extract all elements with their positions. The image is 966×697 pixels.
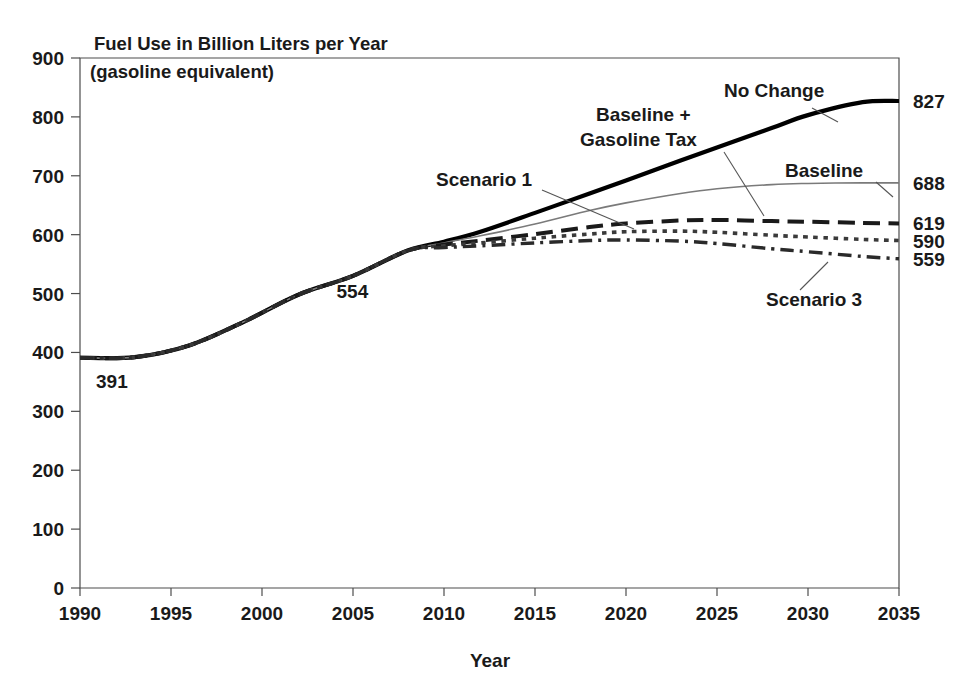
x-tick-label: 2030 <box>787 603 829 624</box>
point-value-annotations: 391554 <box>96 281 369 392</box>
x-tick-label: 1995 <box>150 603 193 624</box>
series-annotation-label: No Change <box>724 80 824 101</box>
series-annotation-label: Baseline + <box>596 104 691 125</box>
series-lines <box>80 101 899 358</box>
x-tick-label: 2005 <box>332 603 375 624</box>
series-annotation-label: Gasoline Tax <box>580 129 697 150</box>
x-axis-title: Year <box>470 650 511 671</box>
plot-frame <box>80 58 899 588</box>
y-axis-tick-marks <box>71 58 80 588</box>
series-end-value-label: 559 <box>913 249 945 270</box>
leader-line <box>876 182 893 197</box>
series-line-no-change <box>80 101 899 358</box>
y-tick-label: 600 <box>32 225 64 246</box>
y-tick-label: 500 <box>32 284 64 305</box>
series-annotation-label: Baseline <box>785 160 863 181</box>
y-tick-label: 300 <box>32 401 64 422</box>
x-axis-tick-labels: 1990199520002005201020152020202520302035 <box>59 603 921 624</box>
chart-subtitle: (gasoline equivalent) <box>90 61 274 82</box>
x-tick-label: 2025 <box>696 603 739 624</box>
y-tick-label: 900 <box>32 48 64 69</box>
series-annotations: No ChangeBaselineScenario 1Baseline +Gas… <box>436 80 863 310</box>
series-end-value-labels: 827688619590559 <box>913 91 945 270</box>
y-tick-label: 400 <box>32 342 64 363</box>
fuel-use-chart: 1990199520002005201020152020202520302035… <box>0 0 966 697</box>
series-annotation-label: Scenario 3 <box>766 289 862 310</box>
y-tick-label: 800 <box>32 107 64 128</box>
y-tick-label: 100 <box>32 519 64 540</box>
y-tick-label: 200 <box>32 460 64 481</box>
y-tick-label: 0 <box>53 578 64 599</box>
y-tick-label: 700 <box>32 166 64 187</box>
leader-line <box>724 152 764 216</box>
chart-canvas: 1990199520002005201020152020202520302035… <box>0 0 966 697</box>
x-tick-label: 2035 <box>878 603 921 624</box>
series-line-baseline <box>80 183 899 358</box>
y-axis-tick-labels: 0100200300400500600700800900 <box>32 48 64 599</box>
series-end-value-label: 688 <box>913 173 945 194</box>
x-axis-tick-marks <box>80 588 899 596</box>
x-tick-label: 1990 <box>59 603 101 624</box>
x-tick-label: 2000 <box>241 603 283 624</box>
x-tick-label: 2015 <box>514 603 557 624</box>
point-value-label: 554 <box>337 281 369 302</box>
point-value-label: 391 <box>96 371 128 392</box>
x-tick-label: 2010 <box>423 603 465 624</box>
chart-title: Fuel Use in Billion Liters per Year <box>94 33 388 54</box>
series-annotation-label: Scenario 1 <box>436 169 533 190</box>
leader-line <box>800 262 828 290</box>
series-end-value-label: 827 <box>913 91 945 112</box>
x-tick-label: 2020 <box>605 603 647 624</box>
